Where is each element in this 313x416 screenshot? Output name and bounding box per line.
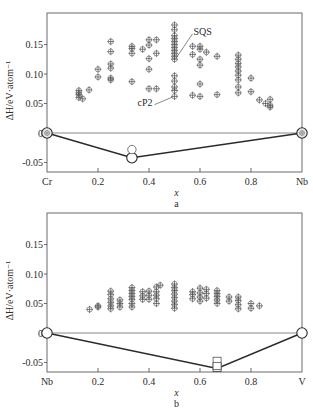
data-point-marker	[153, 50, 160, 57]
x-tick-label: 0.4	[143, 176, 156, 187]
x-tick-label: Nb	[41, 376, 53, 387]
sqs-annotation: SQS	[194, 26, 212, 37]
data-point-marker	[153, 85, 160, 92]
x-tick-label: 0.6	[194, 376, 207, 387]
y-tick-label: -0.05	[22, 357, 43, 368]
data-point-marker	[107, 48, 114, 55]
x-axis-label: x	[173, 187, 179, 198]
data-point-marker	[107, 38, 114, 45]
x-tick-label: 0.2	[92, 176, 105, 187]
y-axis-label: ΔH/eV·atom⁻¹	[4, 261, 15, 321]
data-point-marker	[197, 80, 204, 87]
data-point-marker	[189, 92, 196, 99]
data-point-marker	[235, 76, 242, 83]
hull-vertex-circle	[42, 328, 52, 338]
data-point-marker	[157, 282, 164, 289]
y-tick-label: 0.10	[26, 269, 44, 280]
x-tick-label: 0.6	[194, 176, 207, 187]
x-axis-label: x	[173, 387, 179, 398]
data-point-marker	[214, 91, 221, 98]
x-tick-label: 0.4	[143, 376, 156, 387]
x-tick-label: 0.8	[245, 376, 258, 387]
data-point-marker	[197, 62, 204, 69]
x-tick-label: Cr	[42, 176, 53, 187]
y-tick-label: 0.15	[26, 39, 44, 50]
data-point-marker	[146, 55, 153, 62]
x-tick-label: 0.2	[92, 376, 105, 387]
data-point-marker	[203, 49, 210, 56]
panel-label: b	[174, 398, 179, 409]
panel-a-chart: 0.150.100.050-0.05Cr0.20.40.60.8NbxaΔH/e…	[4, 13, 308, 209]
data-point-marker	[86, 86, 93, 93]
y-axis-label: ΔH/eV·atom⁻¹	[4, 61, 15, 121]
cp2-leader-line	[155, 97, 173, 105]
data-point-marker	[95, 73, 102, 80]
y-tick-label: 0.10	[26, 69, 44, 80]
data-point-marker	[79, 95, 86, 102]
cp2-annotation: cP2	[138, 97, 153, 108]
convex-hull-line	[47, 333, 302, 368]
y-tick-label: 0.05	[26, 298, 44, 309]
data-point-marker	[189, 43, 196, 50]
data-point-marker	[189, 51, 196, 58]
data-point-marker	[248, 88, 255, 95]
y-tick-label: -0.05	[22, 157, 43, 168]
data-point-marker	[86, 306, 93, 313]
x-tick-label: Nb	[296, 176, 308, 187]
data-point-marker	[129, 78, 136, 85]
hull-vertex-circle	[297, 328, 307, 338]
data-point-marker	[153, 300, 160, 307]
data-point-marker	[256, 302, 263, 309]
data-point-marker	[129, 50, 136, 57]
data-point-marker	[146, 41, 153, 48]
data-point-marker	[214, 53, 221, 60]
hull-vertex-circle	[127, 153, 137, 163]
data-point-marker	[95, 66, 102, 73]
data-point-marker	[197, 93, 204, 100]
data-point-marker	[139, 46, 146, 53]
data-point-marker	[248, 75, 255, 82]
data-point-marker	[146, 66, 153, 73]
data-point-marker	[146, 85, 153, 92]
data-point-marker	[256, 96, 263, 103]
data-point-marker	[171, 93, 178, 100]
data-point-marker	[248, 305, 255, 312]
y-tick-label: 0.15	[26, 239, 44, 250]
panel-b-chart: 0.150.100.050-0.05Nb0.20.40.60.8VxbΔH/eV…	[4, 213, 307, 409]
x-tick-label: V	[298, 376, 306, 387]
data-point-marker	[203, 295, 210, 302]
convex-hull-line	[47, 133, 302, 158]
panel-label: a	[174, 198, 179, 209]
x-tick-label: 0.8	[245, 176, 258, 187]
data-point-marker	[153, 36, 160, 43]
figure: 0.150.100.050-0.05Cr0.20.40.60.8NbxaΔH/e…	[0, 0, 313, 416]
data-point-marker	[235, 89, 242, 96]
above-hull-square	[213, 363, 221, 370]
y-tick-label: 0.05	[26, 98, 44, 109]
above-hull-circle	[128, 145, 136, 153]
